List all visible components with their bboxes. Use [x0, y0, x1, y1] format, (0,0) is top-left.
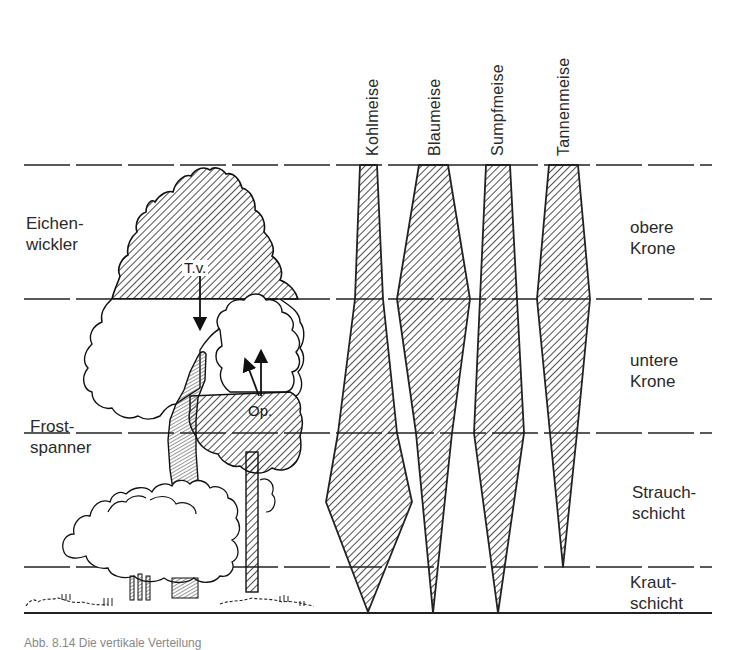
layer-untere-line2: Krone	[630, 371, 678, 392]
pest-frostspanner-line1: Frost-	[30, 416, 91, 437]
bird-label-kohlmeise: Kohlmeise	[364, 79, 382, 156]
distribution-kohlmeise	[326, 165, 412, 612]
pest-eichenwickler-line2: wickler	[26, 234, 84, 255]
layer-label-strauchschicht: Strauch- schicht	[632, 482, 696, 524]
layer-obere-line2: Krone	[630, 238, 675, 259]
layer-obere-line1: obere	[630, 217, 675, 238]
distribution-tannenmeise	[537, 165, 590, 567]
ground-grass	[26, 598, 314, 606]
layer-strauch-line1: Strauch-	[632, 482, 696, 503]
pest-eichenwickler-line1: Eichen-	[26, 213, 84, 234]
distribution-sumpfmeise	[474, 165, 524, 613]
layer-label-obere-krone: obere Krone	[630, 217, 675, 259]
figure-caption: Abb. 8.14 Die vertikale Verteilung	[24, 636, 201, 650]
pest-label-eichenwickler: Eichen- wickler	[26, 213, 84, 255]
bird-distribution-shapes	[326, 165, 590, 613]
layer-label-untere-krone: untere Krone	[630, 350, 678, 392]
layer-label-krautschicht: Kraut- schicht	[630, 572, 683, 614]
layer-untere-line1: untere	[630, 350, 678, 371]
layer-kraut-line1: Kraut-	[630, 572, 683, 593]
upper-crown-hatched	[112, 168, 298, 299]
distribution-blaumeise	[397, 165, 470, 613]
pest-label-frostspanner: Frost- spanner	[30, 416, 91, 458]
bird-label-sumpfmeise: Sumpfmeise	[489, 64, 507, 156]
bird-label-tannenmeise: Tannenmeise	[555, 58, 573, 156]
layer-kraut-line2: schicht	[630, 593, 683, 614]
pest-frostspanner-line2: spanner	[30, 437, 91, 458]
thin-trunk	[246, 452, 258, 592]
annotation-op: Op.	[246, 403, 274, 419]
annotation-tv: T.v.	[182, 260, 208, 276]
layer-strauch-line2: schicht	[632, 503, 696, 524]
lower-crown-right	[216, 294, 299, 392]
bird-label-blaumeise: Blaumeise	[426, 79, 444, 156]
